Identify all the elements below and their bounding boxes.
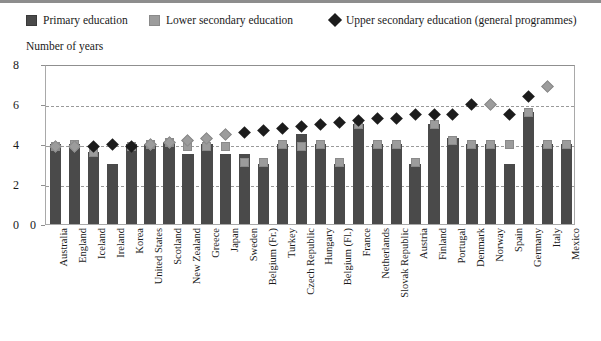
bar-group	[50, 66, 61, 224]
bar-group	[182, 66, 193, 224]
legend-label-primary-education: Primary education	[43, 14, 128, 26]
marker-lower-secondary-education	[505, 140, 514, 149]
marker-upper-secondary-education	[219, 128, 232, 141]
bar-primary-education	[334, 164, 345, 224]
bar-group	[258, 66, 269, 224]
marker-lower-secondary-education	[392, 140, 401, 149]
x-tick-label: Hungary	[323, 228, 334, 265]
marker-lower-secondary-education	[278, 140, 287, 149]
marker-upper-secondary-education	[428, 108, 441, 121]
bar-group	[391, 66, 402, 224]
bar-group	[353, 66, 364, 224]
marker-lower-secondary-education	[562, 140, 571, 149]
bar-primary-education	[126, 144, 137, 224]
marker-upper-secondary-education	[106, 138, 119, 151]
bar-group	[504, 66, 515, 224]
bar-primary-education	[409, 164, 420, 224]
bar-primary-education	[107, 164, 118, 224]
marker-lower-secondary-education	[335, 158, 344, 167]
marker-lower-secondary-education	[486, 140, 495, 149]
x-tick-label: Scotland	[172, 228, 183, 265]
bar-group	[163, 66, 174, 224]
bar-primary-education	[315, 144, 326, 224]
marker-upper-secondary-education	[314, 118, 327, 131]
x-tick-label: Turkey	[286, 228, 297, 258]
bar-group	[315, 66, 326, 224]
y-tick-2: 2	[0, 179, 19, 191]
bar-primary-education	[69, 144, 80, 224]
bar-group	[372, 66, 383, 224]
bar-primary-education	[428, 124, 439, 224]
bar-group	[523, 66, 534, 224]
bar-primary-education	[353, 124, 364, 224]
x-tick-label: England	[77, 228, 88, 263]
bar-group	[334, 66, 345, 224]
legend-item-primary-education: Primary education	[26, 14, 128, 26]
x-tick-label: Portugal	[456, 228, 467, 264]
marker-upper-secondary-education	[541, 80, 554, 93]
bar-primary-education	[258, 164, 269, 224]
square-light-icon	[149, 15, 160, 26]
square-dark-icon	[26, 15, 37, 26]
y-tick-4: 4	[0, 139, 19, 151]
plot-area	[45, 65, 575, 225]
x-tick-label: Germany	[532, 228, 543, 267]
marker-lower-secondary-education	[373, 140, 382, 149]
bar-group	[107, 66, 118, 224]
marker-lower-secondary-education	[448, 136, 457, 145]
x-tick-label: Mexico	[570, 228, 581, 260]
x-tick-label: Greece	[210, 228, 221, 258]
marker-upper-secondary-education	[522, 90, 535, 103]
marker-upper-secondary-education	[295, 120, 308, 133]
marker-upper-secondary-education	[238, 126, 251, 139]
bar-group	[239, 66, 250, 224]
bar-primary-education	[201, 144, 212, 224]
bar-group	[69, 66, 80, 224]
x-tick-label: France	[361, 228, 372, 257]
marker-upper-secondary-education	[503, 108, 516, 121]
bar-primary-education	[504, 164, 515, 224]
bar-group	[296, 66, 307, 224]
marker-upper-secondary-education	[276, 122, 289, 135]
x-tick-label: Australia	[58, 228, 69, 267]
x-tick-label: Denmark	[475, 228, 486, 267]
bar-group	[220, 66, 231, 224]
bar-group	[561, 66, 572, 224]
marker-lower-secondary-education	[467, 140, 476, 149]
top-rule	[0, 0, 601, 3]
marker-upper-secondary-education	[257, 124, 270, 137]
x-tick-label: Korea	[134, 228, 145, 254]
legend-label-upper-secondary-education: Upper secondary education (general progr…	[346, 14, 577, 26]
x-tick-label: New Zealand	[191, 228, 202, 284]
bar-group	[542, 66, 553, 224]
diamond-dark-icon	[328, 13, 342, 27]
marker-lower-secondary-education	[524, 108, 533, 117]
bar-primary-education	[523, 112, 534, 224]
marker-lower-secondary-education	[543, 140, 552, 149]
bar-group	[144, 66, 155, 224]
x-tick-label: Spain	[513, 228, 524, 252]
y-axis-title: Number of years	[26, 40, 103, 53]
bar-group	[126, 66, 137, 224]
bar-primary-education	[220, 154, 231, 224]
x-tick-label: Norway	[494, 228, 505, 262]
bar-primary-education	[542, 144, 553, 224]
bar-primary-education	[561, 144, 572, 224]
bar-primary-education	[88, 152, 99, 224]
bar-primary-education	[50, 144, 61, 224]
legend-label-lower-secondary-education: Lower secondary education	[166, 14, 293, 26]
y-tick-8: 8	[0, 59, 19, 71]
x-axis-tick-labels: AustraliaEnglandIcelandIrelandKoreaUnite…	[45, 228, 575, 333]
marker-lower-secondary-education	[297, 142, 306, 151]
bar-primary-education	[447, 138, 458, 224]
x-tick-label: Italy	[551, 228, 562, 247]
marker-lower-secondary-education	[240, 158, 249, 167]
bar-primary-education	[277, 144, 288, 224]
y-tick-6: 6	[0, 99, 19, 111]
bar-primary-education	[485, 144, 496, 224]
chart-legend: Primary education Lower secondary educat…	[0, 14, 601, 32]
marker-upper-secondary-education	[333, 116, 346, 129]
bar-group	[428, 66, 439, 224]
marker-upper-secondary-education	[466, 98, 479, 111]
marker-upper-secondary-education	[371, 112, 384, 125]
